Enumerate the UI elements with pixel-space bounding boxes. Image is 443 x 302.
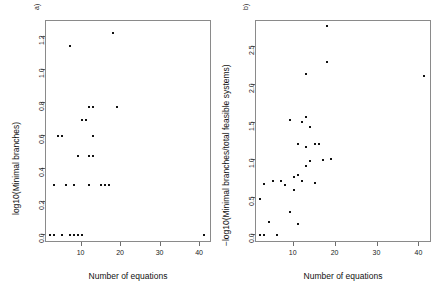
data-point	[100, 184, 102, 186]
data-point	[203, 234, 205, 236]
data-point	[73, 234, 75, 236]
y-tick-label: 2.5	[248, 46, 255, 56]
data-point	[301, 121, 303, 123]
x-tick-label: 40	[415, 249, 423, 256]
data-point	[293, 189, 295, 191]
data-point	[259, 234, 261, 236]
data-point	[81, 234, 83, 236]
data-point	[85, 119, 87, 121]
data-point	[53, 184, 55, 186]
data-point	[77, 155, 79, 157]
data-point	[57, 135, 59, 137]
panel-b: b) −log10(Minimal branches/total feasibl…	[221, 0, 442, 302]
data-point	[69, 234, 71, 236]
panel-b-plot-area	[256, 21, 430, 241]
y-tick-label: 0.2	[38, 200, 45, 210]
data-point	[61, 234, 63, 236]
panel-b-x-axis-title: Number of equations	[304, 272, 383, 281]
panel-a-plot-frame	[45, 20, 211, 242]
y-tick-label: 1.5	[248, 121, 255, 131]
x-tick-label: 20	[331, 249, 339, 256]
panel-a-y-axis-title: log10(Minimal branches)	[12, 122, 21, 215]
data-point	[301, 180, 303, 182]
y-tick-label: 1.0	[38, 69, 45, 79]
data-point	[423, 75, 425, 77]
data-point	[293, 176, 295, 178]
y-tick-label: 1.2	[38, 36, 45, 46]
data-point	[276, 234, 278, 236]
data-point	[53, 234, 55, 236]
data-point	[284, 184, 286, 186]
data-point	[309, 160, 311, 162]
data-point	[309, 126, 311, 128]
data-point	[305, 146, 307, 148]
panel-b-plot-frame	[255, 20, 431, 242]
x-tick-mark	[81, 242, 82, 246]
data-point	[297, 174, 299, 176]
panel-b-y-axis-title: −log10(Minimal branches/total feasible s…	[222, 64, 231, 246]
data-point	[92, 155, 94, 157]
data-point	[81, 119, 83, 121]
data-point	[272, 180, 274, 182]
x-tick-label: 40	[195, 249, 203, 256]
y-tick-label: 0.0	[38, 233, 45, 243]
data-point	[69, 45, 71, 47]
data-point	[104, 184, 106, 186]
x-tick-mark	[335, 242, 336, 246]
panel-a-plot-area	[46, 21, 210, 241]
data-point	[314, 143, 316, 145]
data-point	[49, 234, 51, 236]
y-tick-label: 0.4	[38, 167, 45, 177]
panel-a-x-axis-title: Number of equations	[89, 272, 168, 281]
data-point	[116, 106, 118, 108]
data-point	[322, 159, 324, 161]
data-point	[108, 184, 110, 186]
data-point	[263, 183, 265, 185]
x-tick-label: 10	[77, 249, 85, 256]
x-tick-mark	[199, 242, 200, 246]
x-tick-label: 30	[156, 249, 164, 256]
figure-scatter-panels: a) log10(Minimal branches) 0.00.20.40.60…	[0, 0, 443, 302]
x-tick-label: 10	[289, 249, 297, 256]
y-tick-label: 0.6	[38, 134, 45, 144]
data-point	[330, 158, 332, 160]
data-point	[61, 135, 63, 137]
data-point	[297, 223, 299, 225]
data-point	[268, 221, 270, 223]
data-point	[305, 116, 307, 118]
data-point	[289, 119, 291, 121]
panel-a: a) log10(Minimal branches) 0.00.20.40.60…	[0, 0, 221, 302]
panel-b-label: b)	[242, 4, 249, 10]
data-point	[88, 184, 90, 186]
data-point	[318, 143, 320, 145]
data-point	[263, 234, 265, 236]
x-tick-mark	[377, 242, 378, 246]
y-tick-label: 0.8	[38, 101, 45, 111]
data-point	[326, 25, 328, 27]
data-point	[305, 73, 307, 75]
data-point	[88, 106, 90, 108]
data-point	[65, 184, 67, 186]
y-tick-label: 1.0	[248, 158, 255, 168]
y-tick-label: 2.0	[248, 83, 255, 93]
y-tick-label: 0.0	[248, 234, 255, 244]
data-point	[88, 155, 90, 157]
data-point	[314, 182, 316, 184]
data-point	[92, 106, 94, 108]
data-point	[289, 211, 291, 213]
data-point	[77, 234, 79, 236]
data-point	[73, 184, 75, 186]
y-tick-label: 0.5	[248, 196, 255, 206]
data-point	[92, 135, 94, 137]
x-tick-mark	[293, 242, 294, 246]
x-tick-label: 20	[116, 249, 124, 256]
panel-a-label: a)	[33, 4, 40, 10]
x-tick-mark	[160, 242, 161, 246]
x-tick-mark	[120, 242, 121, 246]
data-point	[297, 143, 299, 145]
data-point	[112, 32, 114, 34]
x-tick-label: 30	[373, 249, 381, 256]
data-point	[326, 61, 328, 63]
data-point	[305, 165, 307, 167]
data-point	[259, 198, 261, 200]
